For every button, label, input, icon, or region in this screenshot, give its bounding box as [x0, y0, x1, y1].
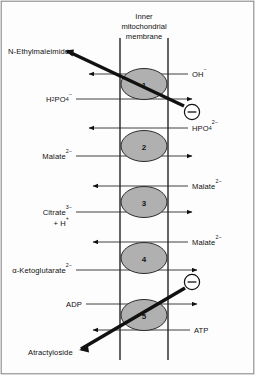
- label-h2po4-charge: −: [69, 91, 72, 97]
- label-malate-cytosol-1: Malate2−: [192, 178, 222, 191]
- label-citrate-base: Citrate: [43, 208, 66, 217]
- label-malate-cytosol-1-base: Malate: [192, 182, 215, 191]
- label-alpha-ketoglutarate-charge: 2−: [66, 262, 72, 268]
- inhibitor-nem-line: [67, 51, 184, 106]
- label-citrate-proton-base: + H: [53, 219, 65, 228]
- diagram-canvas: 1 2 3 4 5 Inner mitochondrial membrane: [0, 0, 255, 375]
- label-atp: ATP: [194, 326, 209, 335]
- mitochondrial-transporter-diagram: 1 2 3 4 5 Inner mitochondrial membrane: [0, 0, 255, 375]
- label-h2po4-sub4: 4: [66, 96, 69, 102]
- label-hpo4-charge: 2−: [212, 119, 218, 125]
- label-oh-base: OH: [192, 70, 204, 79]
- label-malate-cytosol-2-base: Malate: [192, 238, 215, 247]
- label-hpo4-base: HPO: [192, 124, 209, 133]
- inhibitor-atractyloside-group: [79, 274, 200, 352]
- label-adp: ADP: [66, 300, 82, 309]
- label-malate-matrix: Malate2−: [42, 148, 72, 161]
- label-malate-cytosol-2: Malate2−: [192, 234, 222, 247]
- label-hpo4: HPO42−: [192, 119, 218, 132]
- label-h2po4: H2PO4−: [46, 91, 72, 104]
- label-alpha-ketoglutarate: α-Ketoglutarate2−: [12, 262, 72, 275]
- label-malate-matrix-charge: 2−: [66, 148, 72, 154]
- label-malate-cytosol-1-charge: 2−: [215, 178, 221, 184]
- membrane-caption: Inner mitochondrial membrane: [121, 12, 166, 41]
- carrier-2-number: 2: [142, 143, 147, 152]
- label-malate-cytosol-2-charge: 2−: [215, 234, 221, 240]
- membrane-caption-line-2: mitochondrial: [121, 22, 166, 31]
- label-n-ethylmaleimide: N-Ethylmaleimide: [8, 47, 69, 56]
- label-oh-charge: −: [204, 66, 207, 72]
- carrier-3-number: 3: [142, 199, 147, 208]
- carrier-4-number: 4: [142, 255, 147, 264]
- carrier-ovals: 1 2 3 4 5: [121, 69, 167, 331]
- label-atractyloside: Atractyloside: [28, 348, 73, 357]
- inhibitor-atractyloside-line: [81, 288, 185, 349]
- membrane-caption-line-3: membrane: [126, 32, 162, 41]
- label-h2po4-po: PO: [55, 95, 66, 104]
- label-malate-matrix-base: Malate: [42, 152, 65, 161]
- membrane-caption-line-1: Inner: [135, 12, 153, 21]
- label-citrate-proton-charge: +: [66, 215, 69, 221]
- label-oh: OH−: [192, 66, 207, 79]
- label-hpo4-sub: 4: [209, 125, 212, 131]
- label-alpha-ketoglutarate-base: α-Ketoglutarate: [12, 266, 66, 275]
- label-citrate-charge: 3−: [66, 204, 72, 210]
- left-labels: N-Ethylmaleimide H2PO4− Malate2− Citrate…: [8, 47, 82, 357]
